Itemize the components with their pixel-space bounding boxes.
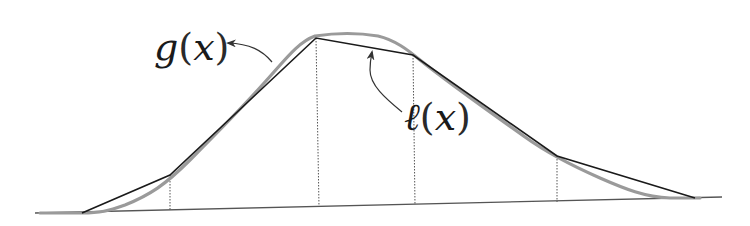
l-func: ℓ: [404, 95, 420, 139]
l-var: x: [435, 95, 456, 139]
g-label-arrow: [228, 43, 272, 62]
l-close-paren: ): [456, 95, 471, 139]
g-func: g: [154, 25, 178, 69]
knot-line-2: [316, 38, 319, 207]
g-open-paren: (: [178, 25, 193, 69]
l-of-x-label: ℓ(x): [404, 98, 471, 136]
g-close-paren: ): [215, 25, 230, 69]
diagram-canvas: [0, 0, 750, 226]
l-label-arrow: [370, 52, 402, 112]
l-open-paren: (: [420, 95, 435, 139]
g-of-x-label: g(x): [154, 28, 229, 66]
g-var: x: [193, 25, 214, 69]
